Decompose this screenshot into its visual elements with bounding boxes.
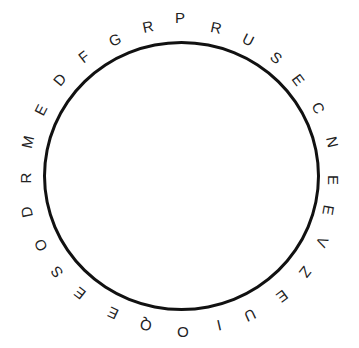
ring-letter: E bbox=[66, 279, 94, 307]
ring-letter: U bbox=[237, 302, 264, 329]
ring-letter: E bbox=[28, 97, 55, 124]
ring-letter: F bbox=[70, 43, 98, 71]
ring-letter: Q bbox=[134, 313, 157, 336]
ring-letter: O bbox=[173, 322, 193, 342]
ring-letter: M bbox=[16, 130, 40, 154]
ring-letter: R bbox=[136, 15, 160, 39]
ring-letter: E bbox=[323, 170, 343, 190]
ring-letter: Z bbox=[291, 258, 319, 286]
ring-letter: N bbox=[320, 130, 344, 154]
ring-letter: I bbox=[207, 313, 231, 337]
ring-letter: E bbox=[100, 300, 127, 327]
ring-letter: D bbox=[15, 200, 39, 224]
ring-letter: E bbox=[316, 198, 339, 221]
ring-letter: C bbox=[305, 95, 332, 122]
ring-letter: R bbox=[16, 168, 36, 188]
ring-letter: S bbox=[43, 258, 71, 286]
ring-letter: R bbox=[204, 16, 228, 40]
ring-letter: O bbox=[28, 232, 55, 259]
ring-letter: D bbox=[46, 66, 74, 94]
ring-letter: E bbox=[268, 282, 296, 310]
circle-outline bbox=[43, 41, 320, 311]
ring-letter: V bbox=[309, 229, 336, 256]
ring-letter: P bbox=[170, 8, 190, 28]
letter-ring-figure: PRUSECNEEVZEUIOQEESODRMEDFGR bbox=[0, 0, 359, 348]
ring-letter: U bbox=[235, 27, 262, 54]
ring-letter: S bbox=[262, 44, 290, 72]
ring-letter: G bbox=[102, 27, 128, 53]
